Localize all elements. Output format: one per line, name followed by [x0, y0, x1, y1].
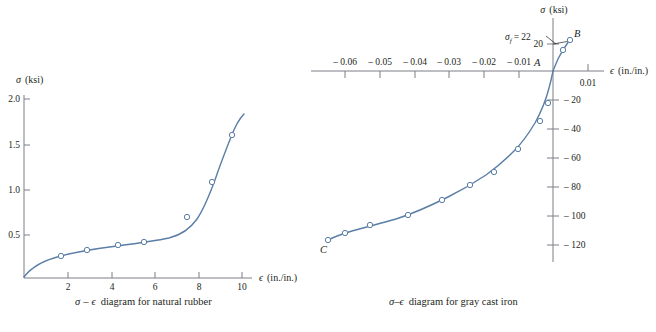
right-xtick-label-001: 0.01	[580, 78, 597, 88]
right-ytick-label-m80: – 80	[563, 182, 581, 192]
left-curve	[24, 114, 244, 277]
left-xtick-label-4: 4	[110, 282, 115, 292]
left-x-axis-title: ϵ(in./in.)	[259, 272, 297, 284]
right-xtick-label-m006: – 0.06	[332, 57, 357, 67]
sigma-f-annotation: σf= 22	[505, 32, 531, 45]
left-y-ticks	[24, 99, 30, 235]
right-ytick-label-m100: – 100	[563, 211, 586, 221]
left-y-axis-title: σ(ksi)	[16, 74, 43, 86]
right-ytick-label-m120: – 120	[563, 240, 586, 250]
stress-strain-figure: 2.0 1.5 1.0 0.5 2 4 6 8 10 σ(ksi) ϵ(in./…	[0, 0, 656, 332]
right-x-axis-title: ϵ(in./in.)	[610, 65, 648, 77]
right-y-axis-title: σ(ksi)	[540, 4, 567, 16]
left-ytick-label-0.5: 0.5	[8, 230, 20, 240]
left-xtick-label-10: 10	[237, 282, 247, 292]
left-chart-natural-rubber: 2.0 1.5 1.0 0.5 2 4 6 8 10 σ(ksi) ϵ(in./…	[8, 74, 297, 307]
left-ytick-label-2: 2.0	[8, 94, 20, 104]
left-chart-caption: σ–ϵdiagram for natural rubber	[75, 296, 212, 307]
figure-canvas: 2.0 1.5 1.0 0.5 2 4 6 8 10 σ(ksi) ϵ(in./…	[0, 0, 656, 332]
right-point-label-a: A	[533, 57, 541, 68]
left-x-ticks	[68, 272, 242, 278]
right-curve-compression	[328, 71, 553, 240]
right-point-label-b: B	[574, 28, 581, 39]
right-ytick-label-m20: – 20	[563, 95, 581, 105]
right-xtick-label-m004: – 0.04	[402, 57, 427, 67]
right-curve-tension	[553, 40, 570, 71]
left-ytick-label-1.5: 1.5	[8, 140, 20, 150]
right-point-label-c: C	[320, 244, 328, 255]
right-ytick-label-m40: – 40	[563, 124, 581, 134]
right-ytick-label-m60: – 60	[563, 153, 581, 163]
right-xtick-label-m005: – 0.05	[367, 57, 392, 67]
left-ytick-label-1: 1.0	[8, 185, 20, 195]
left-xtick-label-2: 2	[66, 282, 71, 292]
sigma-f-leader-line	[546, 36, 556, 44]
left-xtick-label-8: 8	[197, 282, 202, 292]
left-xtick-label-6: 6	[153, 282, 158, 292]
right-xtick-label-m001: – 0.01	[506, 57, 531, 67]
right-chart-gray-cast-iron: – 0.06 – 0.05 – 0.04 – 0.03 – 0.02 – 0.0…	[311, 4, 648, 307]
right-data-markers	[325, 37, 572, 242]
right-xtick-label-m002: – 0.02	[471, 57, 496, 67]
right-chart-caption: σ–ϵdiagram for gray cast iron	[389, 296, 518, 307]
right-ytick-label-20: 20	[534, 39, 544, 49]
right-xtick-label-m003: – 0.03	[436, 57, 461, 67]
